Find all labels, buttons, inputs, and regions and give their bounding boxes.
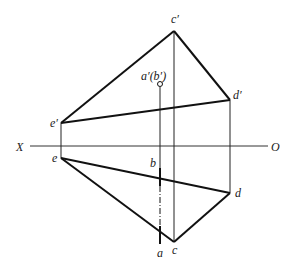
diagram-svg: X O c′ d′ e′ a′(b′) e b d a c bbox=[0, 0, 293, 273]
label-ab-prime: a′(b′) bbox=[141, 69, 166, 83]
edge-e-d bbox=[61, 158, 230, 193]
label-axis-o: O bbox=[271, 140, 280, 154]
edge-c-d bbox=[174, 193, 230, 242]
label-d: d bbox=[235, 186, 242, 200]
label-e: e bbox=[52, 151, 58, 165]
label-c-prime: c′ bbox=[171, 12, 179, 26]
projection-diagram: X O c′ d′ e′ a′(b′) e b d a c bbox=[0, 0, 293, 273]
label-c: c bbox=[172, 243, 178, 257]
label-e-prime: e′ bbox=[50, 116, 58, 130]
label-a: a bbox=[157, 246, 163, 260]
label-d-prime: d′ bbox=[233, 88, 242, 102]
label-b: b bbox=[150, 156, 156, 170]
edge-c-prime-d-prime bbox=[174, 31, 230, 100]
label-axis-x: X bbox=[15, 140, 24, 154]
